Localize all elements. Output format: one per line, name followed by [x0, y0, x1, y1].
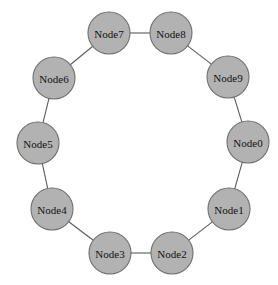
- graph-node-node3[interactable]: Node3: [89, 232, 131, 274]
- graph-node-node5[interactable]: Node5: [17, 122, 59, 164]
- graph-edge-Node0-Node1: [235, 162, 243, 189]
- graph-node-node6[interactable]: Node6: [33, 57, 75, 99]
- node-label-node4: Node4: [37, 204, 67, 216]
- graph-node-node7[interactable]: Node7: [88, 12, 130, 54]
- graph-node-node4[interactable]: Node4: [31, 188, 73, 230]
- graph-edge-Node5-Node6: [43, 98, 49, 122]
- graph-node-node2[interactable]: Node2: [151, 232, 193, 274]
- graph-edge-Node4-Node5: [42, 164, 47, 189]
- graph-node-node9[interactable]: Node9: [207, 56, 249, 98]
- graph-node-node0[interactable]: Node0: [227, 121, 269, 163]
- node-layer: Node0Node1Node2Node3Node4Node5Node6Node7…: [17, 12, 269, 274]
- node-label-node9: Node9: [213, 72, 243, 84]
- graph-edge-Node6-Node7: [70, 46, 93, 64]
- ring-graph-diagram: Node0Node1Node2Node3Node4Node5Node6Node7…: [0, 0, 278, 285]
- node-label-node7: Node7: [94, 28, 124, 40]
- node-label-node1: Node1: [214, 204, 243, 216]
- graph-edge-Node3-Node4: [69, 222, 94, 241]
- node-label-node3: Node3: [95, 248, 125, 260]
- node-label-node2: Node2: [157, 248, 186, 260]
- graph-node-node8[interactable]: Node8: [150, 12, 192, 54]
- graph-canvas: Node0Node1Node2Node3Node4Node5Node6Node7…: [0, 0, 278, 285]
- node-label-node5: Node5: [23, 138, 53, 150]
- graph-edge-Node1-Node2: [189, 222, 213, 240]
- graph-edge-Node8-Node9: [188, 46, 212, 64]
- node-label-node8: Node8: [156, 28, 186, 40]
- node-label-node6: Node6: [39, 73, 69, 85]
- graph-node-node1[interactable]: Node1: [208, 188, 250, 230]
- graph-edge-Node9-Node0: [234, 97, 242, 122]
- node-label-node0: Node0: [233, 137, 263, 149]
